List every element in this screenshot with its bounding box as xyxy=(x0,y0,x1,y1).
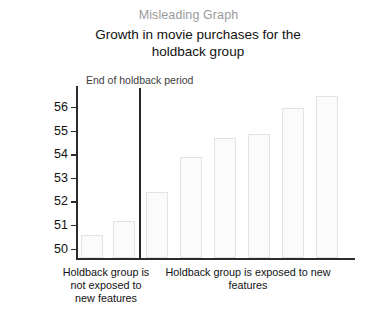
y-tick-mark-55 xyxy=(71,131,76,132)
chart-figure: Misleading Graph Growth in movie purchas… xyxy=(0,0,377,325)
group-caption-right: Holdback group is exposed to new feature… xyxy=(160,266,336,292)
group-caption-left-line-1: Holdback group is xyxy=(63,266,149,278)
bar-4 xyxy=(180,157,202,258)
y-tick-mark-54 xyxy=(71,154,76,155)
chart-title-line-2: holdback group xyxy=(152,44,244,59)
y-tick-label-54: 54 xyxy=(54,147,68,161)
chart-title: Growth in movie purchases for the holdba… xyxy=(38,26,358,60)
group-caption-left-line-2: not exposed to xyxy=(71,279,142,291)
bar-8 xyxy=(316,96,338,259)
y-tick-label-52: 52 xyxy=(54,194,68,208)
bar-2 xyxy=(113,221,135,259)
y-tick-mark-50 xyxy=(71,249,76,250)
chart-supertitle: Misleading Graph xyxy=(0,8,377,22)
y-tick-mark-53 xyxy=(71,178,76,179)
x-axis-line xyxy=(76,258,355,260)
holdback-divider-label: End of holdback period xyxy=(86,74,193,86)
y-tick-mark-51 xyxy=(71,225,76,226)
y-tick-label-56: 56 xyxy=(54,100,68,114)
bar-1 xyxy=(81,235,103,259)
bar-6 xyxy=(248,134,270,259)
bar-3 xyxy=(146,192,168,258)
holdback-divider-line xyxy=(139,88,141,260)
plot-area: 50 51 52 53 54 55 56 xyxy=(76,86,355,260)
y-tick-mark-56 xyxy=(71,107,76,108)
y-axis-line xyxy=(76,86,78,260)
group-caption-right-line-1: Holdback group is exposed to new xyxy=(165,266,330,278)
group-caption-right-line-2: features xyxy=(228,279,267,291)
chart-title-line-1: Growth in movie purchases for the xyxy=(95,27,301,42)
y-tick-label-55: 55 xyxy=(54,124,68,138)
y-tick-mark-52 xyxy=(71,201,76,202)
y-tick-label-50: 50 xyxy=(54,242,68,256)
bar-5 xyxy=(214,138,236,258)
y-tick-label-53: 53 xyxy=(54,171,68,185)
group-caption-left: Holdback group is not exposed to new fea… xyxy=(58,266,154,305)
bar-7 xyxy=(282,108,304,259)
y-tick-label-51: 51 xyxy=(54,218,68,232)
group-caption-left-line-3: new features xyxy=(75,292,137,304)
